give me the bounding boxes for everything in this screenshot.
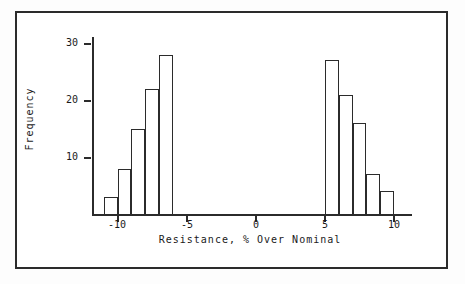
histogram-bar <box>118 169 132 215</box>
x-tick-label-5: 5 <box>305 219 345 230</box>
y-tick-label-30: 30 <box>50 37 78 48</box>
histogram-bar <box>131 129 145 215</box>
y-tick-label-20: 20 <box>50 94 78 105</box>
histogram-plot: Frequency Resistance, % Over Nominal 30 … <box>0 0 465 284</box>
x-tick-label-0: 0 <box>236 219 276 230</box>
x-tick-label--10: -10 <box>97 219 137 230</box>
y-tick-mark-30 <box>84 43 91 45</box>
histogram-bar <box>353 123 367 214</box>
histogram-bar <box>339 95 353 215</box>
x-axis-title: Resistance, % Over Nominal <box>85 234 415 245</box>
x-tick-label--5: -5 <box>167 219 207 230</box>
histogram-bar <box>145 89 159 214</box>
histogram-bar <box>104 197 118 214</box>
histogram-bar <box>159 55 173 215</box>
y-axis-title: Frequency <box>24 74 38 164</box>
y-tick-mark-20 <box>84 100 91 102</box>
y-tick-label-10: 10 <box>50 151 78 162</box>
histogram-bar <box>325 60 339 214</box>
histogram-bar <box>366 174 380 214</box>
figure-canvas: Frequency Resistance, % Over Nominal 30 … <box>0 0 465 284</box>
x-tick-label-10: 10 <box>374 219 414 230</box>
y-tick-mark-10 <box>84 157 91 159</box>
x-axis-line <box>92 214 412 216</box>
y-axis-line <box>92 37 94 215</box>
histogram-bar <box>380 191 394 214</box>
